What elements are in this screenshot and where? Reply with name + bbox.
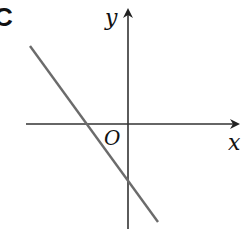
diagram: C y x O: [0, 0, 246, 229]
y-axis-label: y: [104, 5, 118, 30]
origin-label: O: [104, 126, 120, 150]
coordinate-plane: C y x O: [0, 0, 246, 229]
graph-line: [30, 46, 158, 222]
x-axis-label: x: [228, 130, 241, 155]
option-label: C: [0, 2, 13, 32]
